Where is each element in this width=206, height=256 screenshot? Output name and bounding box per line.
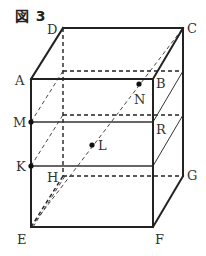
label-G: G [187,168,197,183]
label-N: N [134,92,145,107]
point-L [89,142,94,147]
label-R: R [156,122,167,137]
label-M: M [13,115,26,130]
cuboid-figure: 図 3 [0,0,206,256]
label-D: D [47,22,57,37]
point-K [28,163,33,168]
label-K: K [16,159,26,174]
marked-points [28,81,141,168]
label-A: A [14,73,25,88]
label-F: F [155,232,164,247]
edge-FG [153,176,183,227]
label-L: L [98,138,107,153]
label-C: C [187,21,197,36]
label-B: B [156,76,166,91]
label-H: H [47,170,58,185]
point-M [28,119,33,124]
cuboid-diagram: D C A B N M R L K H G E F [0,0,206,256]
point-N [136,81,141,86]
label-E: E [17,232,27,247]
labels: D C A B N M R L K H G E F [13,21,197,247]
